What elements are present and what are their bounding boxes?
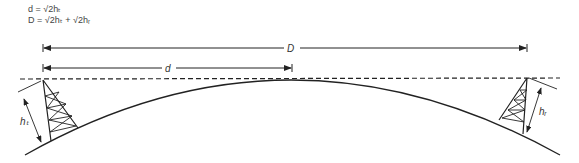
d-dimension: d [43,63,292,74]
label-D: D [287,43,294,54]
label-ht: hₜ [20,116,30,127]
D-dimension: D [43,43,527,54]
label-d: d [165,63,171,74]
radio-horizon-diagram: D d hₜ hᵣ [0,0,579,163]
label-hr: hᵣ [539,106,548,117]
receive-tower: hᵣ [499,78,557,134]
line-of-sight [20,78,560,79]
earth-curve [25,80,560,155]
